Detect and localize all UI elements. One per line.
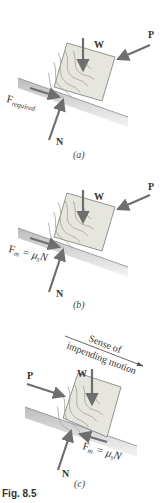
panel-label-a: (a) [73, 149, 85, 161]
normal-arrow [58, 431, 71, 470]
push-label: P [27, 370, 33, 381]
push-label: P [148, 181, 154, 192]
weight-label: W [77, 368, 87, 379]
normal-label: N [56, 288, 64, 299]
panel-a: W P N Frequired (a) [5, 29, 154, 161]
normal-label: N [56, 136, 64, 147]
weight-label: W [94, 191, 104, 202]
normal-arrow [49, 100, 63, 140]
panel-label-b: (b) [73, 299, 85, 311]
push-arrow [118, 45, 150, 59]
friction-label: Frequired [5, 92, 38, 113]
weight-label: W [94, 39, 104, 50]
push-arrow [27, 384, 64, 396]
panel-label-c: (c) [74, 478, 86, 490]
normal-arrow [49, 250, 63, 292]
panel-c: Sense of impending motion W P N Fm = μsN… [25, 333, 143, 490]
figure-8-5: W P N Frequired (a) W P N Fm = μsN [0, 0, 163, 503]
friction-diagrams: W P N Frequired (a) W P N Fm = μsN [0, 0, 163, 503]
push-arrow [118, 195, 150, 209]
normal-label: N [62, 468, 70, 479]
panel-b: W P N Fm = μsN (b) [7, 181, 154, 311]
push-label: P [148, 29, 154, 40]
figure-caption: Fig. 8.5 [2, 488, 36, 499]
